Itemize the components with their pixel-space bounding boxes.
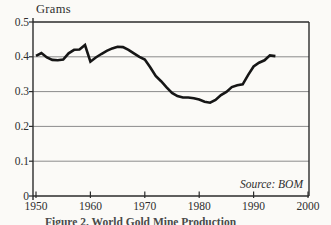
x-tick-label: 1990: [232, 200, 276, 213]
figure-caption: Figure 2. World Gold Mine Production: [45, 216, 236, 225]
source-note: Source: BOM: [240, 178, 303, 190]
x-tick-label: 1950: [14, 200, 58, 213]
x-tick-label: 1960: [68, 200, 112, 213]
y-tick-label: 0.4: [1, 50, 29, 63]
x-tick-label: 1980: [177, 200, 221, 213]
x-tick-label: 1970: [123, 200, 167, 213]
x-tick-label: 2000: [286, 200, 330, 213]
y-tick-label: 0.2: [1, 120, 29, 133]
y-tick-label: 0.3: [1, 85, 29, 98]
data-line: [36, 45, 275, 103]
plot-area: [0, 0, 331, 225]
y-tick-label: 0.5: [1, 16, 29, 29]
y-tick-label: 0.1: [1, 155, 29, 168]
chart-figure: Grams 00.10.20.30.40.5 19501960197019801…: [0, 0, 331, 225]
